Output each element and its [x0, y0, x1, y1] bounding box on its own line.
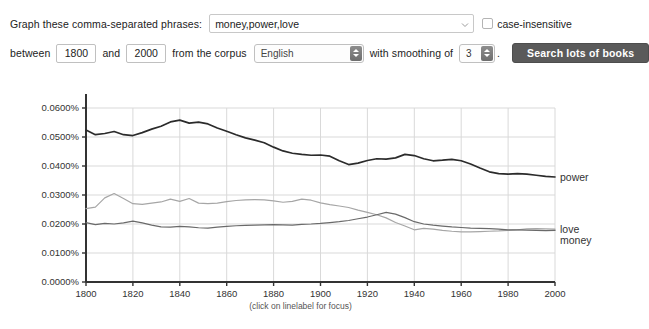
phrases-label: Graph these comma-separated phrases: — [10, 18, 202, 30]
smoothing-stepper-arrows-icon[interactable] — [481, 46, 493, 61]
case-insensitive-checkbox[interactable] — [482, 18, 493, 29]
svg-text:0.0100%: 0.0100% — [41, 247, 79, 258]
case-insensitive-wrapper: case-insensitive — [482, 18, 572, 30]
svg-text:1820: 1820 — [122, 288, 143, 299]
svg-text:1880: 1880 — [263, 288, 284, 299]
stepper-arrows-icon[interactable] — [350, 46, 362, 61]
svg-text:1900: 1900 — [310, 288, 331, 299]
phrases-row: Graph these comma-separated phrases: cas… — [10, 14, 572, 33]
chart-line-labels[interactable]: powerlovemoney — [560, 171, 592, 246]
line-label-money[interactable]: money — [560, 234, 592, 246]
and-label: and — [102, 47, 120, 59]
svg-text:1800: 1800 — [75, 288, 96, 299]
svg-text:0.0500%: 0.0500% — [41, 131, 79, 142]
smoothing-label: with smoothing of — [370, 47, 453, 59]
phrases-input-wrapper — [209, 14, 474, 33]
svg-text:0.0400%: 0.0400% — [41, 160, 79, 171]
chart-axes — [82, 94, 555, 286]
chart-gridlines — [86, 108, 555, 282]
phrases-input[interactable] — [209, 14, 474, 33]
ngram-chart: 0.0000%0.0100%0.0200%0.0300%0.0400%0.050… — [0, 86, 601, 329]
svg-text:0.0300%: 0.0300% — [41, 189, 79, 200]
svg-text:1980: 1980 — [498, 288, 519, 299]
chart-footnote: (click on linelabel for focus) — [0, 301, 601, 311]
search-button[interactable]: Search lots of books — [512, 43, 649, 63]
corpus-select[interactable]: English — [254, 44, 364, 63]
sentence-period: . — [497, 47, 500, 59]
start-year-input[interactable] — [56, 44, 96, 63]
case-insensitive-label: case-insensitive — [497, 18, 572, 30]
line-label-power[interactable]: power — [560, 171, 589, 183]
svg-text:0.0200%: 0.0200% — [41, 218, 79, 229]
smoothing-select-wrapper: 3 — [459, 44, 495, 63]
svg-text:1920: 1920 — [357, 288, 378, 299]
corpus-label: from the corpus — [172, 47, 246, 59]
svg-text:1960: 1960 — [451, 288, 472, 299]
chart-tick-labels: 0.0000%0.0100%0.0200%0.0300%0.0400%0.050… — [41, 102, 565, 299]
svg-text:0.0600%: 0.0600% — [41, 102, 79, 113]
options-row: between and from the corpus English with… — [10, 43, 649, 63]
svg-text:2000: 2000 — [544, 288, 565, 299]
between-label: between — [10, 47, 50, 59]
svg-text:0.0000%: 0.0000% — [41, 276, 79, 287]
end-year-input[interactable] — [126, 44, 166, 63]
corpus-select-wrapper: English — [254, 44, 364, 63]
chart-svg: 0.0000%0.0100%0.0200%0.0300%0.0400%0.050… — [0, 86, 601, 301]
svg-text:1860: 1860 — [216, 288, 237, 299]
svg-text:1940: 1940 — [404, 288, 425, 299]
svg-text:1840: 1840 — [169, 288, 190, 299]
